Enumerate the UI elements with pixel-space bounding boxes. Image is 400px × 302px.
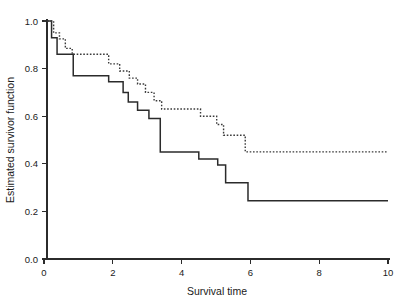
x-tick-label: 0: [41, 267, 46, 278]
x-axis-ticks: [44, 259, 388, 264]
y-tick-label: 0.6: [25, 111, 38, 122]
y-axis-tick-labels: 1.0 0.8 0.6 0.4 0.2 0.0: [25, 16, 38, 265]
survival-curve-dotted: [44, 21, 388, 152]
x-tick-label: 8: [317, 267, 322, 278]
y-tick-label: 0.2: [25, 206, 38, 217]
x-tick-label: 10: [383, 267, 394, 278]
survival-curve-solid: [44, 21, 388, 201]
y-tick-label: 0.4: [25, 158, 38, 169]
x-tick-label: 4: [179, 267, 184, 278]
y-tick-label: 0.8: [25, 63, 38, 74]
y-axis-title: Estimated survivor function: [4, 77, 16, 203]
x-tick-label: 6: [248, 267, 253, 278]
y-tick-label: 0.0: [25, 254, 38, 265]
y-tick-label: 1.0: [25, 16, 38, 27]
x-axis-tick-labels: 0 2 4 6 8 10: [41, 267, 393, 278]
x-axis-title: Survival time: [187, 285, 247, 297]
plot-canvas: 1.0 0.8 0.6 0.4 0.2 0.0 0 2 4 6 8 10 Sur…: [0, 0, 400, 302]
survival-plot-figure: 1.0 0.8 0.6 0.4 0.2 0.0 0 2 4 6 8 10 Sur…: [0, 0, 400, 302]
x-tick-label: 2: [110, 267, 115, 278]
y-axis-ticks: [42, 21, 47, 259]
